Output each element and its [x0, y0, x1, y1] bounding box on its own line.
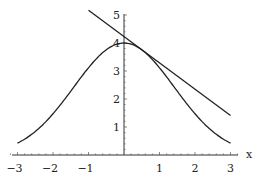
- x-axis-label: x: [246, 148, 253, 161]
- x-tick-label: 2: [192, 162, 199, 175]
- y-tick-label: 5: [113, 9, 120, 22]
- x-tick-label: −1: [77, 162, 93, 175]
- x-tick-label: −3: [6, 162, 22, 175]
- x-tick-label: 1: [156, 162, 163, 175]
- y-tick-label: 4: [113, 37, 120, 50]
- axes: [10, 14, 238, 155]
- y-tick-label: 2: [113, 93, 120, 106]
- chart: −3−2−112312345x: [0, 0, 260, 182]
- tick-labels: −3−2−112312345x: [6, 9, 253, 175]
- y-tick-label: 3: [113, 65, 120, 78]
- x-tick-label: 3: [227, 162, 234, 175]
- tangent-line: [89, 10, 231, 115]
- y-tick-label: 1: [113, 121, 120, 134]
- x-tick-label: −2: [42, 162, 58, 175]
